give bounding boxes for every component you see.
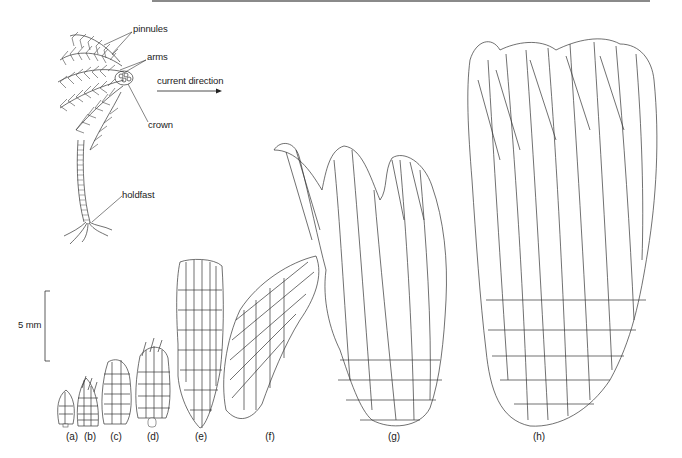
scale-bar-label: 5 mm: [18, 319, 41, 330]
stage-label-c: (c): [110, 431, 122, 442]
label-crown: crown: [148, 119, 173, 130]
specimen-e: [177, 259, 224, 428]
stage-label-e: (e): [195, 431, 207, 442]
current-direction-arrow-icon: [157, 89, 222, 94]
specimen-f: [224, 256, 319, 419]
crinoid-stem-icon: [77, 140, 90, 222]
label-pinnules: pinnules: [133, 23, 168, 34]
specimen-b: [77, 376, 98, 426]
stage-label-b: (b): [84, 431, 96, 442]
label-current-direction: current direction: [157, 75, 223, 86]
crinoid-crown-icon: [58, 32, 133, 150]
stage-label-g: (g): [388, 431, 400, 442]
specimen-h: [468, 39, 657, 426]
specimen-c: [102, 360, 131, 424]
stage-label-d: (d): [147, 431, 159, 442]
stage-label-a: (a): [66, 431, 78, 442]
specimen-d: [136, 338, 170, 427]
specimen-g: [274, 143, 446, 425]
stage-label-h: (h): [533, 431, 545, 442]
crinoid-illustration: [0, 0, 682, 458]
label-holdfast: holdfast: [122, 189, 154, 200]
label-arms: arms: [147, 51, 168, 62]
scale-bar: [45, 291, 50, 361]
crinoid-holdfast-icon: [64, 222, 112, 244]
stage-label-f: (f): [265, 431, 274, 442]
specimen-a: [58, 390, 75, 427]
